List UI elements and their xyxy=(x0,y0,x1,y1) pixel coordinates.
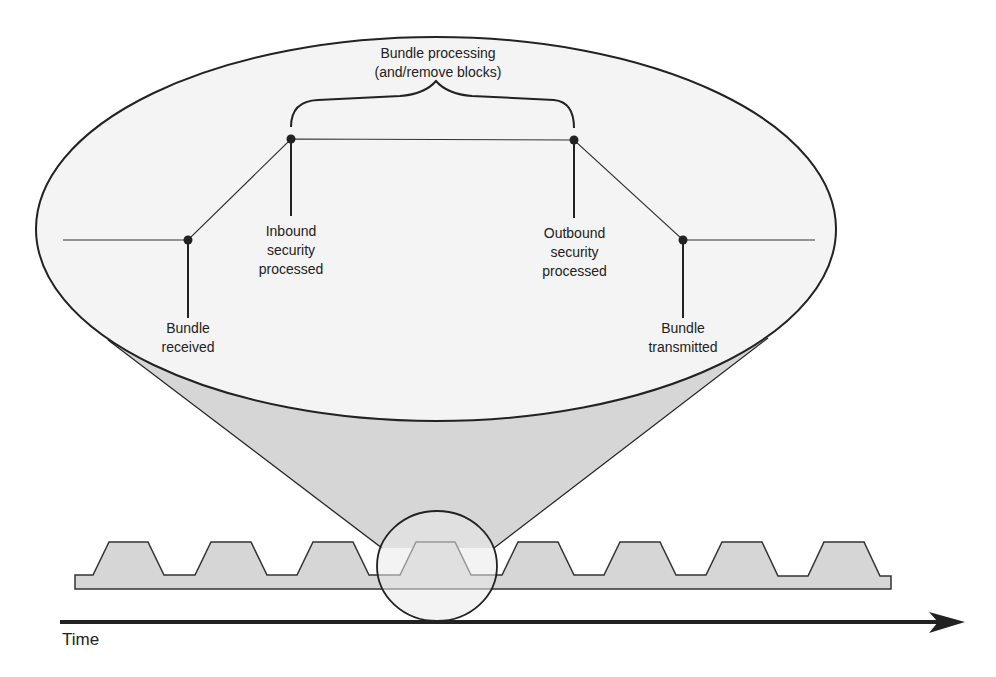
event-dot-bundle-transmitted xyxy=(679,236,688,245)
magnifier-circle xyxy=(377,511,497,621)
magnified-view-ellipse xyxy=(36,37,836,421)
inbound-security-label: Inbound security processed xyxy=(246,222,336,279)
event-dot-outbound-security xyxy=(570,136,579,145)
event-dot-bundle-received xyxy=(184,236,193,245)
outbound-security-label: Outbound security processed xyxy=(527,224,622,281)
time-axis-label: Time xyxy=(62,630,99,650)
bundle-processing-label: Bundle processing (and/remove blocks) xyxy=(368,44,508,82)
bundle-transmitted-label: Bundle transmitted xyxy=(633,319,733,357)
event-dot-inbound-security xyxy=(287,135,296,144)
bundle-received-label: Bundle received xyxy=(148,319,228,357)
